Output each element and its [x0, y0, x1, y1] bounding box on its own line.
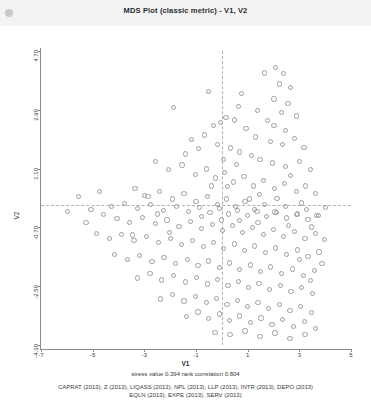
scatter-point [227, 260, 232, 265]
scatter-point [227, 318, 232, 323]
scatter-point [213, 175, 218, 180]
scatter-plot-area [41, 51, 351, 345]
x-tick-label: -3 [134, 352, 154, 358]
scatter-point [278, 283, 283, 288]
stress-statistics: stress value 0.394 rank correlation 0.80… [0, 371, 371, 377]
scatter-point [135, 206, 140, 211]
scatter-point [199, 214, 204, 219]
y-axis-title: V2 [13, 212, 20, 220]
scatter-point [288, 289, 293, 294]
y-tick-label: 4.70 [33, 50, 39, 72]
scatter-point [299, 200, 304, 205]
scatter-point [237, 313, 242, 318]
scatter-point [231, 179, 236, 184]
scatter-point [283, 204, 288, 209]
scatter-point [266, 306, 271, 311]
scatter-point [211, 240, 216, 245]
scatter-point [280, 142, 285, 147]
scatter-point [304, 207, 309, 212]
y-tick-label: -0.70 [33, 226, 39, 248]
scatter-point [256, 281, 261, 286]
scatter-point [197, 205, 202, 210]
scatter-point [215, 277, 220, 282]
scatter-point [214, 296, 219, 301]
scatter-point [245, 304, 250, 309]
scatter-point [246, 285, 251, 290]
scatter-point [189, 137, 194, 142]
scatter-point [242, 328, 247, 333]
scatter-point [207, 210, 212, 215]
x-tick-label: -5 [83, 352, 103, 358]
x-tick-label: 1 [238, 352, 258, 358]
scatter-point [323, 205, 328, 210]
scatter-point [270, 160, 275, 165]
scatter-point [193, 172, 198, 177]
scatter-point [294, 189, 299, 194]
scatter-point [226, 211, 231, 216]
scatter-point [83, 220, 88, 225]
scatter-point [251, 183, 256, 188]
scatter-point [302, 319, 307, 324]
scatter-point [290, 266, 295, 271]
x-axis-title: V1 [0, 360, 371, 367]
scatter-point [277, 81, 282, 86]
scatter-point [237, 218, 242, 223]
scatter-point [167, 230, 172, 235]
scatter-point [288, 85, 293, 90]
scatter-point [132, 186, 137, 191]
scatter-point [292, 229, 297, 234]
scatter-point [232, 117, 237, 122]
scatter-point [243, 126, 248, 131]
scatter-point [281, 234, 286, 239]
scatter-point [235, 298, 240, 303]
scatter-point [107, 236, 112, 241]
scatter-point [171, 105, 176, 110]
scatter-point [322, 237, 327, 242]
scatter-point [237, 149, 242, 154]
scatter-point [313, 326, 318, 331]
scatter-point [153, 159, 158, 164]
scatter-point [309, 224, 314, 229]
scatter-point [170, 196, 175, 201]
scatter-point [227, 332, 232, 337]
scatter-point [221, 157, 226, 162]
scatter-point [181, 191, 186, 196]
scatter-point [161, 208, 166, 213]
scatter-point [183, 151, 188, 156]
y-tick-label: 1.10 [33, 168, 39, 190]
scatter-point [225, 283, 230, 288]
scatter-point [299, 285, 304, 290]
scatter-point [220, 228, 225, 233]
scatter-point [199, 226, 204, 231]
scatter-point [184, 314, 189, 319]
scatter-point [249, 153, 254, 158]
scatter-point [194, 275, 199, 280]
scatter-point [295, 211, 300, 216]
scatter-point [298, 304, 303, 309]
scatter-point [195, 263, 200, 268]
scatter-point [262, 70, 267, 75]
scatter-point [241, 174, 246, 179]
scatter-point [302, 332, 307, 337]
scatter-point [112, 252, 117, 257]
scatter-point [114, 216, 119, 221]
scatter-point [312, 268, 317, 273]
scatter-point [261, 232, 266, 237]
scatter-point [148, 202, 153, 207]
scatter-point [221, 246, 226, 251]
scatter-point [245, 213, 250, 218]
scatter-point [234, 162, 239, 167]
scatter-point [76, 194, 81, 199]
scatter-point [236, 279, 241, 284]
scatter-point [206, 89, 211, 94]
scatter-point [173, 261, 178, 266]
x-tick-label: -7 [31, 352, 51, 358]
scatter-point [224, 196, 229, 201]
scatter-point [196, 146, 201, 151]
scatter-point [268, 139, 273, 144]
scatter-point [171, 273, 176, 278]
scatter-point [205, 281, 210, 286]
window-title-bar: MDS Plot (classic metric) - V1, V2 [0, 0, 371, 26]
scatter-point [265, 118, 270, 123]
scatter-point [157, 189, 162, 194]
